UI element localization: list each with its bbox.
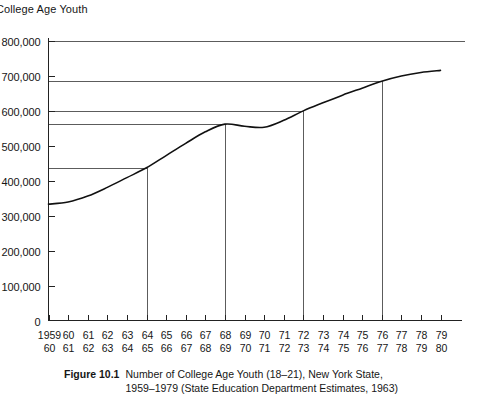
x-axis-label-end-year: 68 — [200, 342, 212, 354]
x-axis-label-end-year: 65 — [142, 342, 154, 354]
figure-container: College Age Youth 0100,000200,000300,000… — [0, 0, 490, 396]
x-axis-label-start-year: 61 — [83, 329, 95, 341]
y-axis-tick-label: 400,000 — [1, 176, 40, 188]
x-axis-label-end-year: 80 — [436, 342, 448, 354]
chart-plot-area: 0100,000200,000300,000400,000500,000600,… — [0, 0, 490, 396]
college-age-youth-line — [49, 70, 441, 204]
y-axis-tick-label: 300,000 — [1, 211, 40, 223]
caption-figure-number: Figure 10.1 — [64, 368, 119, 380]
x-axis-label-end-year: 72 — [279, 342, 291, 354]
x-axis-label-start-year: 72 — [298, 329, 310, 341]
y-axis-tick-label: 500,000 — [1, 141, 40, 153]
x-axis-label-end-year: 61 — [63, 342, 75, 354]
y-axis-tick-label: 0 — [34, 316, 40, 328]
x-axis-label-end-year: 73 — [298, 342, 310, 354]
axes-group — [49, 38, 463, 321]
x-axis-label-start-year: 77 — [396, 329, 408, 341]
x-axis-label-start-year: 73 — [318, 329, 330, 341]
x-axis-label-end-year: 71 — [259, 342, 271, 354]
x-axis-label-start-year: 78 — [416, 329, 428, 341]
x-axis-label-start-year: 66 — [181, 329, 193, 341]
x-axis-label-end-year: 75 — [338, 342, 350, 354]
x-axis-label-end-year: 76 — [357, 342, 369, 354]
x-axis-label-start-year: 79 — [436, 329, 448, 341]
x-axis-label-start-year: 1959 — [38, 329, 62, 341]
x-axis-ticks-group — [50, 315, 442, 321]
x-axis-label-start-year: 65 — [161, 329, 173, 341]
x-axis-label-end-year: 67 — [181, 342, 193, 354]
x-axis-label-start-year: 64 — [142, 329, 154, 341]
x-axis-label-start-year: 74 — [338, 329, 350, 341]
y-axis-tick-label: 200,000 — [1, 246, 40, 258]
x-axis-label-start-year: 75 — [357, 329, 369, 341]
caption-line-2: 1959–1979 (State Education Department Es… — [125, 382, 398, 394]
x-axis-label-end-year: 74 — [318, 342, 330, 354]
y-axis-tick-label: 800,000 — [1, 36, 40, 48]
x-axis-label-end-year: 62 — [83, 342, 95, 354]
x-axis-label-end-year: 78 — [396, 342, 408, 354]
x-axis-label-end-year: 63 — [102, 342, 114, 354]
x-axis-label-start-year: 71 — [279, 329, 291, 341]
figure-caption: Figure 10.1Number of College Age Youth (… — [0, 368, 490, 395]
drop-lines-group — [148, 82, 383, 321]
x-axis-label-start-year: 68 — [220, 329, 232, 341]
x-axis-label-start-year: 63 — [122, 329, 134, 341]
x-axis-label-start-year: 60 — [63, 329, 75, 341]
y-axis-tick-label: 600,000 — [1, 106, 40, 118]
x-axis-labels-group: 1959606061616262636364646565666667676868… — [38, 329, 448, 354]
x-axis-label-end-year: 66 — [161, 342, 173, 354]
x-axis-label-start-year: 62 — [102, 329, 114, 341]
y-axis-ticks-group — [49, 42, 55, 287]
x-axis-label-end-year: 79 — [416, 342, 428, 354]
x-axis-label-start-year: 76 — [377, 329, 389, 341]
x-axis-label-start-year: 70 — [259, 329, 271, 341]
x-axis-label-end-year: 64 — [122, 342, 134, 354]
caption-line-1: Number of College Age Youth (18–21), New… — [125, 368, 382, 380]
y-axis-labels-group: 0100,000200,000300,000400,000500,000600,… — [1, 36, 40, 328]
reference-lines-group — [49, 42, 466, 169]
x-axis-label-end-year: 69 — [220, 342, 232, 354]
x-axis-label-start-year: 69 — [240, 329, 252, 341]
x-axis-label-end-year: 77 — [377, 342, 389, 354]
data-series-group — [49, 70, 441, 204]
x-axis-label-end-year: 70 — [240, 342, 252, 354]
y-axis-tick-label: 100,000 — [1, 281, 40, 293]
y-axis-tick-label: 700,000 — [1, 71, 40, 83]
x-axis-label-end-year: 60 — [44, 342, 56, 354]
x-axis-label-start-year: 67 — [200, 329, 212, 341]
